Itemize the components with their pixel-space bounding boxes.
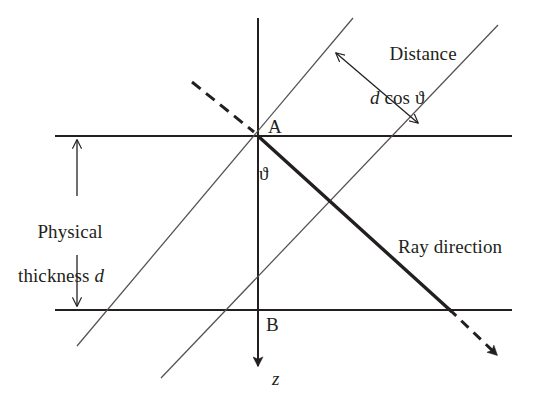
optics-diagram-figure: Distance d cos ϑ Physical thickness d Ra… (0, 0, 539, 400)
ray-direction-label: Ray direction (398, 236, 502, 257)
z-axis-label: z (272, 368, 280, 389)
wavefront-line-through-a (77, 18, 353, 346)
physical-thickness-label: Physical thickness d (18, 200, 104, 329)
point-a-label: A (268, 116, 282, 137)
thickness-symbol-d: d (94, 265, 104, 286)
distance-symbol-d: d (370, 87, 380, 108)
distance-label: Distance d cos ϑ (370, 22, 457, 151)
thickness-word: thickness (18, 265, 94, 286)
thickness-label-line2: thickness d (18, 265, 104, 286)
distance-label-line2: d cos ϑ (370, 87, 457, 108)
thickness-label-line1: Physical (37, 221, 102, 242)
incoming-ray-dashed (192, 82, 254, 132)
outgoing-ray-dashed (449, 309, 497, 355)
refracted-ray-solid (258, 136, 451, 311)
point-b-label: B (266, 314, 279, 335)
angle-theta-label: ϑ (259, 163, 269, 184)
distance-label-line1: Distance (389, 43, 456, 64)
distance-symbol-cos-theta: cos ϑ (380, 87, 425, 108)
